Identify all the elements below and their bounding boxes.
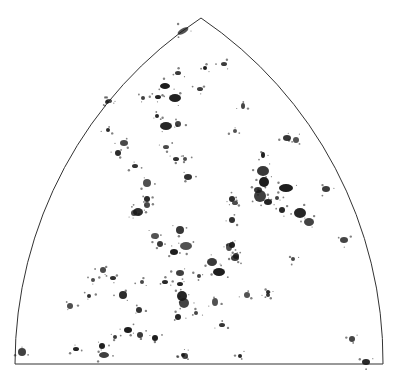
speckle (159, 144, 160, 145)
speckle (170, 270, 172, 272)
speckle (350, 235, 352, 237)
speckle (299, 134, 300, 135)
density-blob (197, 274, 201, 278)
speckle (322, 195, 324, 197)
speckle (241, 358, 243, 360)
speckle (220, 303, 222, 305)
speckle (179, 252, 181, 254)
speckle (270, 199, 272, 201)
speckle (279, 200, 280, 201)
speckle (172, 280, 174, 282)
density-blob (100, 267, 106, 273)
speckle (252, 169, 254, 171)
speckle (277, 182, 279, 184)
density-blob (183, 157, 187, 161)
speckle (133, 204, 135, 206)
speckle (145, 330, 147, 332)
speckle (240, 262, 242, 264)
speckle (247, 290, 249, 292)
speckle (104, 105, 106, 107)
speckle (333, 188, 334, 189)
density-blob (99, 343, 105, 349)
speckle (232, 252, 234, 254)
speckle (151, 196, 153, 198)
speckle (105, 274, 106, 275)
speckle (171, 245, 172, 246)
speckle (365, 368, 367, 370)
speckle (227, 276, 229, 278)
speckle (164, 243, 166, 245)
speckle (313, 215, 315, 217)
speckle (140, 338, 142, 340)
density-blob (99, 352, 109, 358)
speckle (208, 71, 209, 72)
speckle (184, 180, 186, 182)
speckle (202, 315, 203, 316)
speckle (95, 293, 97, 295)
speckle (213, 296, 215, 298)
speckle (264, 186, 265, 187)
speckle (170, 155, 171, 156)
density-blob (362, 359, 370, 365)
density-blob (162, 280, 168, 284)
speckle (125, 290, 127, 292)
speckle (275, 208, 277, 210)
density-blob (219, 323, 225, 327)
density-blob (322, 186, 330, 192)
speckle (168, 255, 170, 257)
density-blob (163, 145, 169, 149)
speckle (101, 131, 102, 132)
speckle (173, 74, 175, 76)
speckle (278, 139, 280, 141)
speckle (183, 161, 185, 163)
speckle (269, 163, 270, 164)
speckle (184, 268, 185, 269)
density-blob (73, 347, 79, 351)
speckle (77, 304, 79, 306)
density-blob (279, 207, 285, 213)
speckle (142, 196, 144, 198)
density-blob (87, 294, 91, 298)
density-blob (349, 336, 355, 342)
speckle (106, 96, 108, 98)
speckle (129, 216, 130, 217)
density-blob (155, 95, 161, 99)
density-blob (238, 354, 242, 358)
speckle (303, 204, 305, 206)
speckle (162, 131, 163, 132)
speckle (108, 126, 110, 128)
speckle (288, 133, 289, 134)
density-blob (257, 166, 269, 176)
density-blob (291, 257, 295, 261)
speckle (69, 352, 71, 354)
speckle (215, 63, 217, 65)
speckle (151, 93, 153, 95)
speckle (214, 327, 215, 328)
speckle (141, 101, 142, 102)
speckle (291, 141, 293, 143)
speckle (178, 243, 179, 244)
speckle (283, 197, 285, 199)
speckle (228, 133, 230, 135)
speckle (138, 94, 140, 96)
speckle (210, 273, 212, 275)
speckle (234, 214, 236, 216)
speckle (195, 176, 197, 178)
speckle (179, 308, 181, 310)
speckle (238, 132, 240, 134)
density-blob (213, 268, 225, 276)
speckle (260, 151, 262, 153)
density-blob (137, 332, 143, 338)
speckle (138, 213, 140, 215)
speckle (194, 308, 196, 310)
density-blob (266, 290, 270, 294)
speckle (149, 335, 150, 336)
speckle (181, 156, 182, 157)
speckle (131, 206, 133, 208)
density-blob (254, 190, 266, 202)
speckle (126, 138, 128, 140)
speckle (191, 157, 193, 159)
speckle (98, 342, 99, 343)
speckle (236, 108, 237, 109)
speckle (135, 313, 136, 314)
